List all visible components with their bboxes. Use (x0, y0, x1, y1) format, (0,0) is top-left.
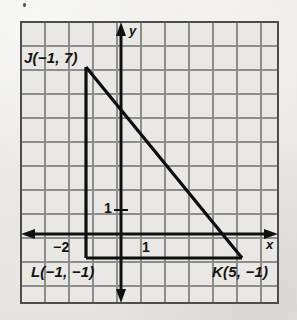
vertex-label-l: L(−1, −1) (31, 264, 95, 279)
vertex-label-k: K(5, −1) (212, 264, 268, 279)
vertex-label-j: J(−1, 7) (24, 50, 78, 65)
x-tick-label-negative-2: −2 (53, 240, 69, 254)
x-tick-label-1: 1 (142, 240, 150, 254)
y-axis-label: y (129, 24, 136, 37)
x-axis-label: x (266, 238, 273, 251)
y-tick-label-1: 1 (104, 201, 112, 215)
